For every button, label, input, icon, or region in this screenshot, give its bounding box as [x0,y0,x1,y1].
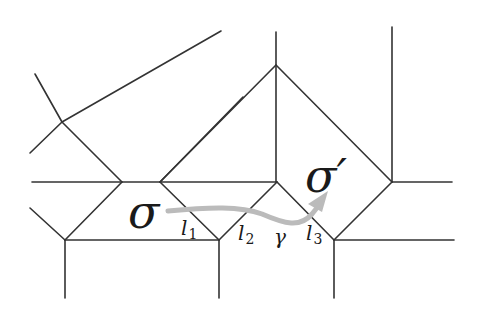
gamma-path [168,191,328,223]
edge [62,122,122,182]
edge [35,74,62,122]
label-gamma: γ [274,225,286,249]
label-sigma-prime: σ′ [305,149,347,203]
label-l1: l1 [181,216,197,242]
label-sigma: σ [128,185,161,239]
edge [30,122,62,153]
edge [160,65,276,182]
label-l2: l2 [238,221,254,247]
diagram-canvas: σ σ′ l1 l2 γ l3 [0,0,486,320]
edge [30,208,65,240]
edge [65,182,122,240]
edges [30,27,454,298]
edge [62,31,221,122]
